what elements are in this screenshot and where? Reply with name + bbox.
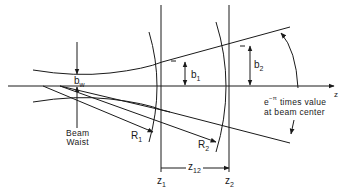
z12-label: z12 (186, 162, 203, 173)
wavefront-r1 (149, 32, 157, 142)
b2-label: b2 (254, 60, 263, 71)
wavefront-r2 (216, 22, 226, 152)
z2-label: z2 (225, 176, 234, 187)
axis-z-label: z (334, 90, 338, 100)
annotation-pointer (291, 120, 294, 134)
gaussian-beam-diagram (0, 0, 342, 192)
bw-label: bw (74, 76, 85, 87)
r1-radius (43, 86, 153, 132)
b1-label: b1 (191, 70, 200, 81)
beam-waist-label: Beam Waist (66, 129, 89, 147)
z1-label: z1 (157, 176, 166, 187)
angle-arc (281, 33, 298, 88)
r1-label: R1 (131, 131, 142, 142)
r2-label: R2 (198, 140, 209, 151)
annotation-label: e−π times value at beam center (264, 98, 326, 117)
